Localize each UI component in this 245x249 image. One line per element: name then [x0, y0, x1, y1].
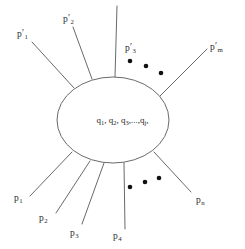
- leg-label-p-prime-3: p′3: [125, 43, 136, 55]
- feynman-blob-diagram: q1, q2, q3,...,qj, p′1p′2p′3p′mp1p2p3p4p…: [0, 0, 245, 249]
- top-ellipsis-dots-1: [128, 59, 133, 64]
- leg-line-p-3: [82, 163, 104, 224]
- leg-label-p-prime-m: p′m: [210, 42, 223, 54]
- leg-line-p-n: [154, 152, 191, 192]
- leg-line-p-4: [124, 163, 125, 229]
- top-ellipsis-dots-3: [159, 71, 164, 76]
- bottom-ellipsis-dots-1: [128, 185, 133, 190]
- leg-label-p-3: p3: [70, 229, 79, 240]
- leg-line-p-prime-m: [160, 49, 207, 96]
- leg-line-p-1: [30, 152, 72, 196]
- leg-label-p-prime-2: p′2: [63, 14, 74, 26]
- leg-label-p-1: p1: [14, 194, 23, 205]
- leg-line-p-prime-3: [115, 6, 117, 77]
- leg-label-p-4: p4: [113, 232, 122, 243]
- bottom-ellipsis-dots-3: [157, 176, 162, 181]
- leg-label-p-n: pn: [196, 196, 205, 207]
- leg-label-p-2: p2: [39, 214, 48, 225]
- blob-contents-label: q1, q2, q3,...,qj,: [0, 115, 245, 126]
- top-ellipsis-dots-2: [144, 64, 149, 69]
- leg-line-p-prime-2: [73, 27, 92, 79]
- leg-line-p-2: [56, 161, 90, 213]
- leg-line-p-prime-1: [32, 42, 74, 88]
- leg-label-p-prime-1: p′1: [17, 29, 28, 41]
- bottom-ellipsis-dots-2: [143, 180, 148, 185]
